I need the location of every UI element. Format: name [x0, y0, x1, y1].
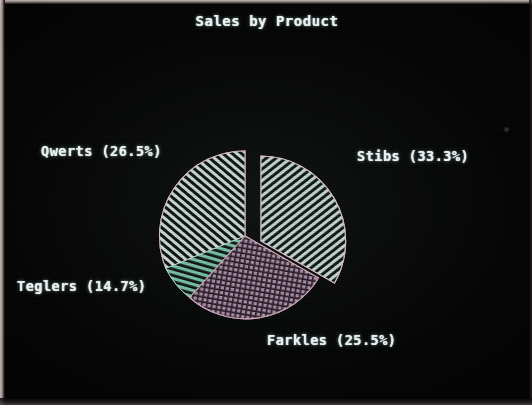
crt-screen: Sales by Product Stibs (33.3%) Farkles (… [5, 4, 529, 398]
photo-border-bottom [0, 398, 532, 405]
pie-label-qwerts: Qwerts (26.5%) [41, 143, 162, 159]
photo-border-top [0, 0, 532, 4]
page-title: Sales by Product [5, 13, 529, 29]
photo-border-left [0, 0, 5, 405]
pie-label-teglers: Teglers (14.7%) [17, 278, 146, 294]
pie-label-stibs: Stibs (33.3%) [357, 148, 469, 164]
pie-label-farkles: Farkles (25.5%) [267, 332, 396, 348]
crt-photo-screenshot: Sales by Product Stibs (33.3%) Farkles (… [0, 0, 532, 405]
